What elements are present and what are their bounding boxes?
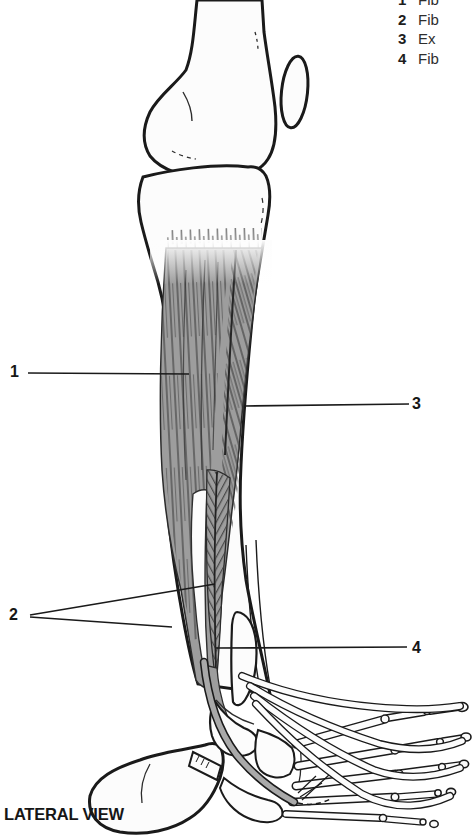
legend-label: Fib xyxy=(418,49,439,69)
callout-label-2: 2 xyxy=(9,606,18,624)
leader-line-3 xyxy=(244,404,409,406)
legend-item-3: 3 Ex xyxy=(398,29,475,49)
legend-label: Fib xyxy=(418,10,439,30)
callout-label-1: 1 xyxy=(10,363,19,381)
leader-line-2b xyxy=(30,617,172,627)
legend-item-2: 2 Fib xyxy=(398,10,475,30)
femur-bone xyxy=(144,0,276,179)
callout-label-3: 3 xyxy=(412,395,421,413)
anatomy-illustration xyxy=(0,0,475,837)
patella-bone xyxy=(278,55,311,129)
legend-number: 2 xyxy=(398,10,411,30)
leader-line-1 xyxy=(28,373,189,374)
legend-label: Ex xyxy=(418,29,436,49)
legend-item-1: 1 Fib xyxy=(398,0,475,10)
view-caption: LATERAL VIEW xyxy=(4,805,124,824)
legend: 1 Fib 2 Fib 3 Ex 4 Fib xyxy=(398,0,475,68)
leader-line-4 xyxy=(216,647,407,648)
legend-label: Fib xyxy=(418,0,439,10)
legend-number: 4 xyxy=(398,49,411,69)
legend-number: 1 xyxy=(398,0,411,10)
legend-number: 3 xyxy=(398,29,411,49)
anatomy-figure: 1 Fib 2 Fib 3 Ex 4 Fib 1 2 3 4 LATERAL V… xyxy=(0,0,475,837)
callout-label-4: 4 xyxy=(412,639,421,657)
legend-item-4: 4 Fib xyxy=(398,49,475,69)
